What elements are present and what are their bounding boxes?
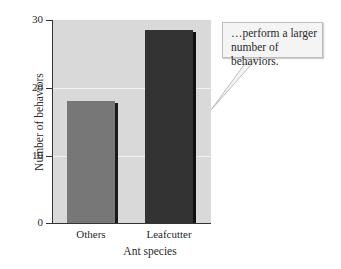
x-category-label: Leafcutter: [134, 228, 204, 240]
y-tick-0: [46, 223, 52, 224]
y-axis: [52, 20, 53, 224]
annotation-line: …perform a larger: [231, 26, 322, 40]
x-axis: [52, 223, 211, 224]
bar-others: [67, 101, 115, 223]
y-tick-10: [46, 156, 52, 157]
y-axis-title: Number of behaviors: [33, 62, 45, 182]
annotation-callout: …perform a larger number of behaviors.: [222, 22, 323, 58]
y-tick-label: 30: [23, 13, 43, 25]
bar-leafcutter: [145, 30, 193, 223]
y-tick-label: 0: [23, 216, 43, 228]
y-tick-20: [46, 88, 52, 89]
x-category-label: Others: [56, 228, 126, 240]
y-tick-30: [46, 20, 52, 21]
x-axis-title: Ant species: [90, 245, 210, 257]
annotation-line: number of behaviors.: [231, 40, 322, 68]
